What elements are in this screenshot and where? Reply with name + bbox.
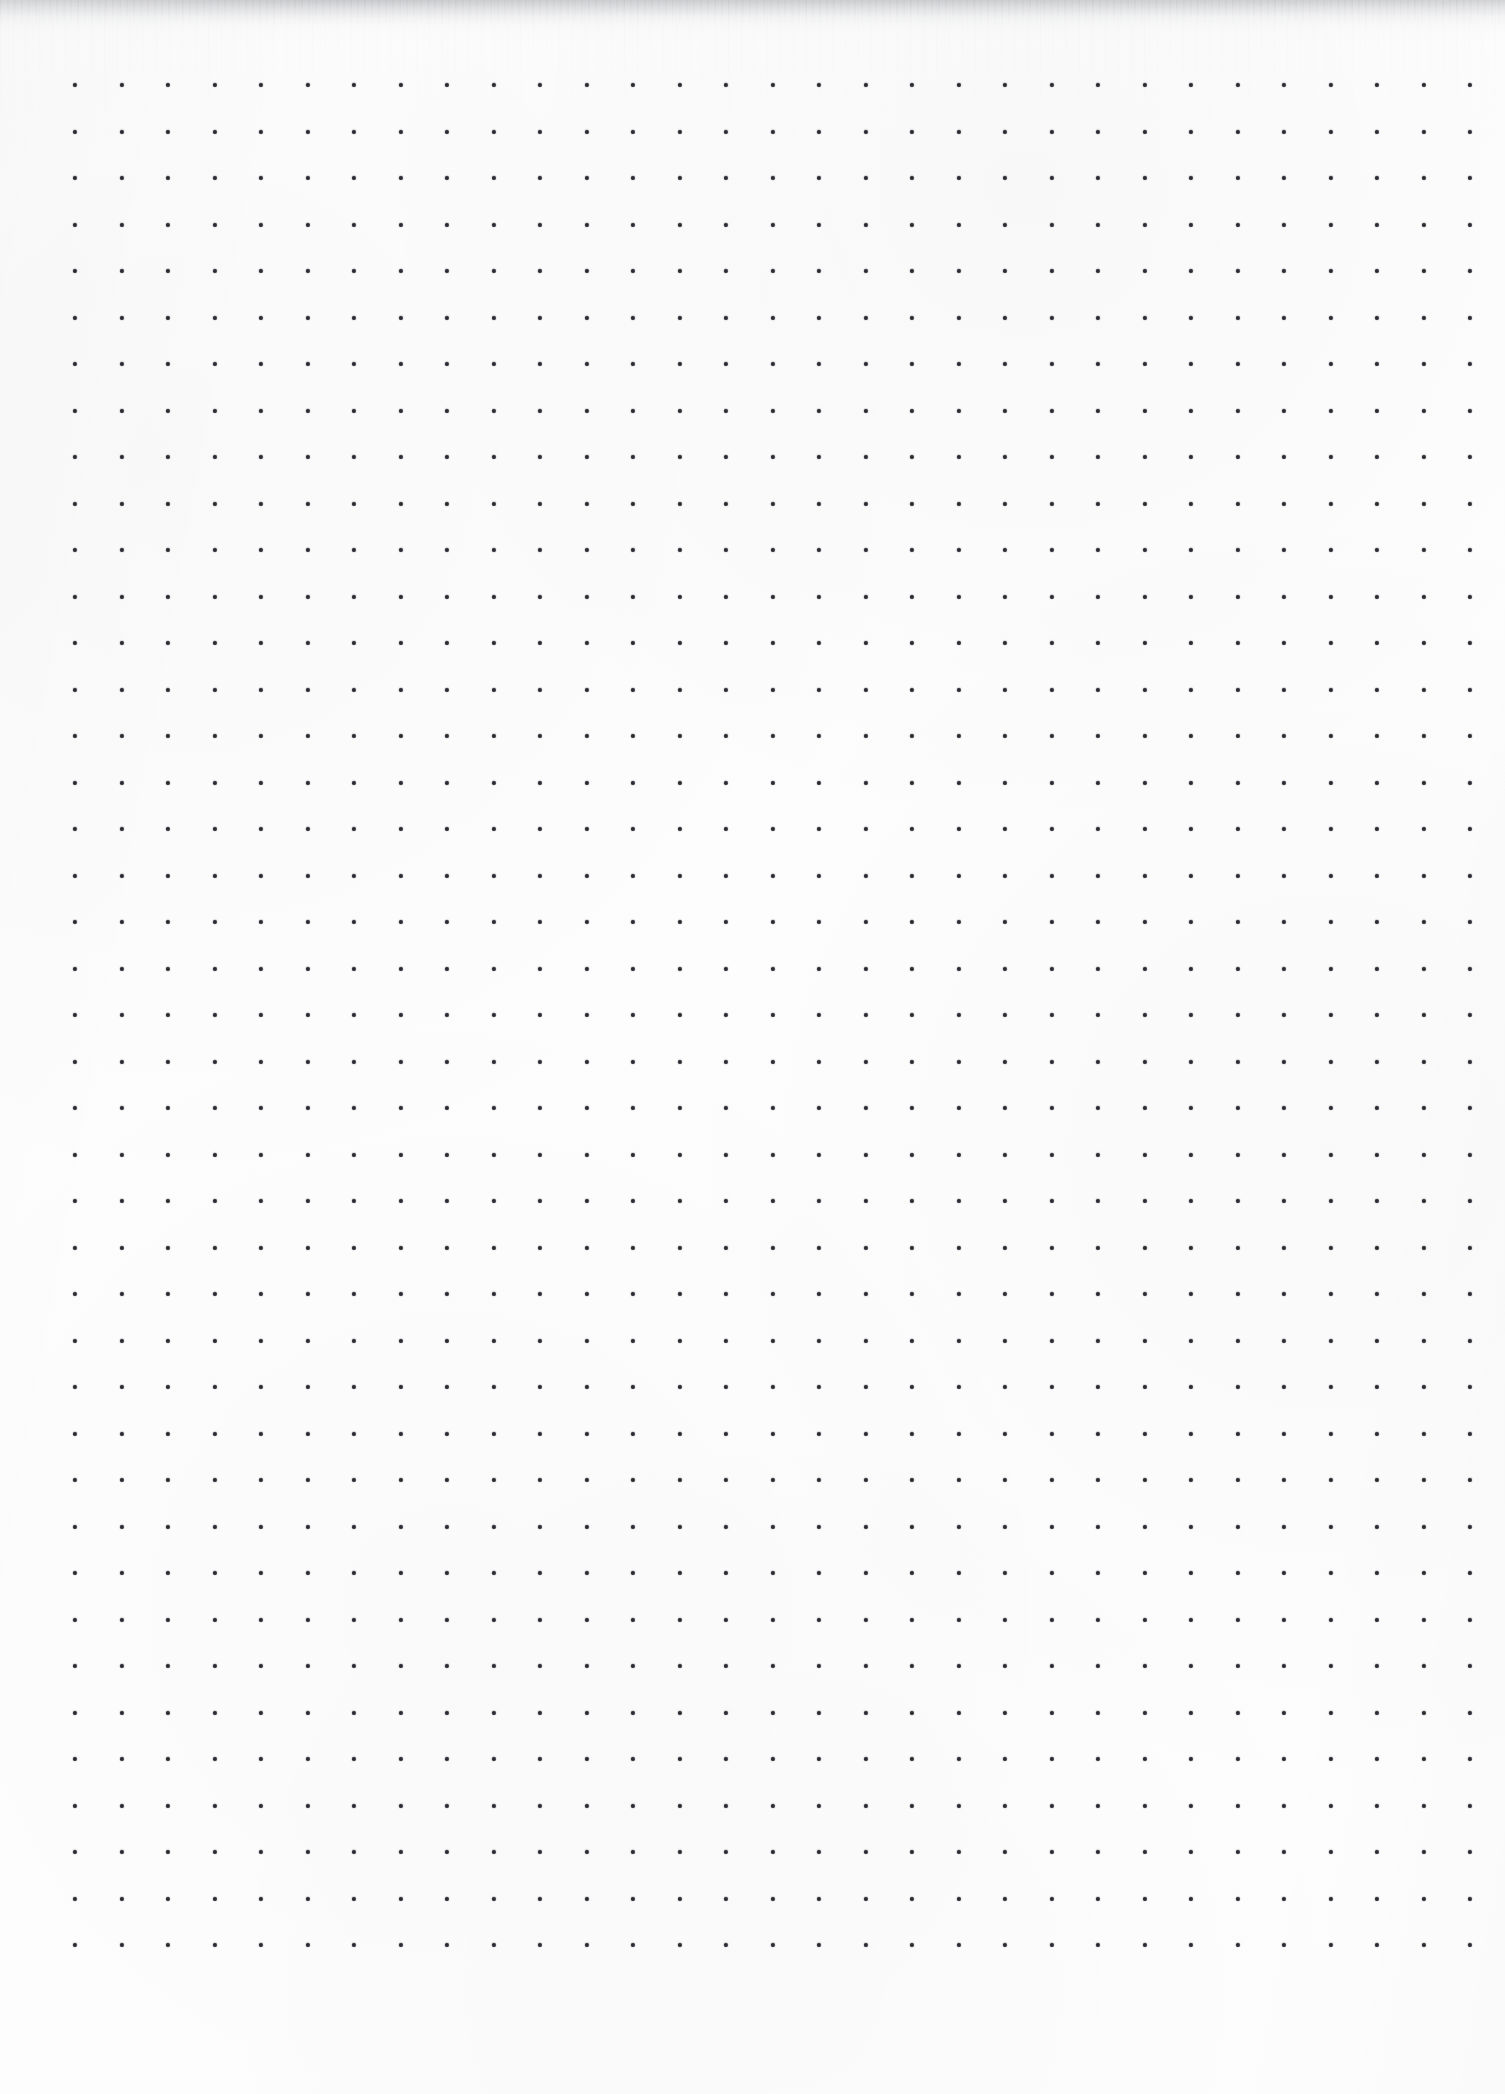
grid-dot	[1468, 1757, 1472, 1761]
grid-dot	[1189, 1478, 1193, 1482]
grid-dot	[166, 1013, 170, 1017]
grid-dot	[538, 129, 542, 133]
grid-dot	[73, 548, 77, 552]
grid-dot	[1003, 362, 1007, 366]
grid-dot	[1189, 827, 1193, 831]
grid-dot	[538, 1943, 542, 1947]
grid-dot	[817, 1664, 821, 1668]
grid-dot	[1142, 129, 1146, 133]
grid-dot	[1282, 501, 1286, 505]
grid-dot	[817, 1850, 821, 1854]
grid-dot	[491, 1710, 495, 1714]
grid-dot	[305, 1199, 309, 1203]
grid-dot	[584, 176, 588, 180]
grid-dot	[398, 129, 402, 133]
grid-dot	[73, 873, 77, 877]
grid-dot	[166, 362, 170, 366]
grid-dot	[73, 827, 77, 831]
grid-dot	[631, 548, 635, 552]
grid-dot	[1375, 1478, 1379, 1482]
grid-dot	[910, 734, 914, 738]
grid-dot	[910, 1431, 914, 1435]
grid-dot	[259, 1757, 263, 1761]
grid-dot	[119, 176, 123, 180]
grid-dot	[1421, 129, 1425, 133]
grid-dot	[1421, 1803, 1425, 1807]
grid-dot	[166, 1059, 170, 1063]
grid-dot	[259, 1943, 263, 1947]
grid-dot	[956, 1059, 960, 1063]
grid-dot	[1282, 455, 1286, 459]
grid-dot	[1096, 315, 1100, 319]
grid-dot	[445, 1431, 449, 1435]
grid-dot	[119, 1478, 123, 1482]
grid-dot	[352, 501, 356, 505]
grid-dot	[677, 501, 681, 505]
grid-dot	[1235, 1571, 1239, 1575]
grid-dot	[445, 827, 449, 831]
grid-dot	[863, 780, 867, 784]
grid-dot	[166, 83, 170, 87]
grid-dot	[1421, 641, 1425, 645]
grid-dot	[398, 408, 402, 412]
grid-dot	[677, 1757, 681, 1761]
grid-dot	[770, 1571, 774, 1575]
grid-dot	[1189, 966, 1193, 970]
grid-dot	[724, 873, 728, 877]
grid-dot	[352, 1664, 356, 1668]
grid-dot	[1096, 873, 1100, 877]
grid-dot	[212, 1152, 216, 1156]
grid-dot	[305, 1617, 309, 1621]
grid-dot	[398, 455, 402, 459]
grid-dot	[445, 920, 449, 924]
grid-dot	[1049, 1385, 1053, 1389]
grid-dot	[398, 83, 402, 87]
grid-dot	[73, 1617, 77, 1621]
grid-dot	[863, 1431, 867, 1435]
grid-dot	[1421, 1199, 1425, 1203]
grid-dot	[119, 1059, 123, 1063]
grid-dot	[1328, 1571, 1332, 1575]
grid-dot	[1142, 1803, 1146, 1807]
grid-dot	[1421, 362, 1425, 366]
grid-dot	[1096, 966, 1100, 970]
grid-dot	[119, 1013, 123, 1017]
grid-dot	[1049, 1571, 1053, 1575]
grid-dot	[770, 501, 774, 505]
grid-dot	[259, 548, 263, 552]
grid-dot	[259, 408, 263, 412]
grid-dot	[1421, 269, 1425, 273]
grid-dot	[1282, 734, 1286, 738]
grid-dot	[166, 687, 170, 691]
grid-dot	[1328, 827, 1332, 831]
grid-dot	[491, 734, 495, 738]
grid-dot	[1049, 1199, 1053, 1203]
grid-dot	[1096, 1943, 1100, 1947]
grid-dot	[817, 548, 821, 552]
grid-dot	[538, 222, 542, 226]
grid-dot	[956, 966, 960, 970]
grid-dot	[1096, 1617, 1100, 1621]
grid-dot	[677, 734, 681, 738]
grid-dot	[398, 315, 402, 319]
grid-dot	[259, 641, 263, 645]
grid-dot	[305, 455, 309, 459]
grid-dot	[398, 1571, 402, 1575]
grid-dot	[1375, 408, 1379, 412]
grid-dot	[956, 222, 960, 226]
grid-dot	[119, 1431, 123, 1435]
grid-dot	[1468, 1385, 1472, 1389]
grid-dot	[910, 1943, 914, 1947]
grid-dot	[1421, 1013, 1425, 1017]
grid-dot	[259, 1524, 263, 1528]
grid-dot	[1049, 1710, 1053, 1714]
grid-dot	[398, 1710, 402, 1714]
grid-dot	[631, 1385, 635, 1389]
grid-dot	[677, 920, 681, 924]
dot-grid	[0, 0, 1505, 2094]
grid-dot	[352, 1478, 356, 1482]
grid-dot	[1003, 687, 1007, 691]
grid-dot	[1282, 594, 1286, 598]
grid-dot	[398, 1850, 402, 1854]
grid-dot	[305, 734, 309, 738]
